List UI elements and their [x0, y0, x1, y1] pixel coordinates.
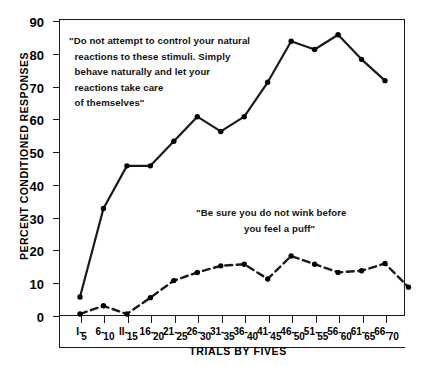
x-tick-label-1-5: I-5 — [76, 327, 88, 337]
y-axis-title: PERCENT CONDITIONED RESPONSES — [18, 46, 30, 266]
x-tick-label-61-65: 61-65 — [351, 327, 377, 337]
x-tick-label-66-70: 66-70 — [374, 327, 400, 337]
x-tick-label-6-10: 6-10 — [95, 327, 115, 337]
y-tick-label-20: 20 — [30, 244, 44, 259]
x-tick-46-50: 46-50 — [292, 316, 293, 323]
x-tick-36-40: 36-40 — [245, 316, 246, 323]
x-tick-41-45: 41-45 — [269, 316, 270, 323]
y-tick-10: 10 — [53, 283, 60, 284]
x-tick-label-46-50: 46-50 — [280, 327, 306, 337]
x-tick-label-51-55: 51-55 — [304, 327, 330, 337]
x-tick-label-11-15: II-15 — [119, 327, 139, 337]
y-tick-label-0: 0 — [37, 310, 44, 325]
x-tick-61-65: 61-65 — [363, 316, 364, 323]
y-tick-80: 80 — [53, 54, 60, 55]
x-tick-66-70: 66-70 — [386, 316, 387, 323]
x-axis-line — [59, 315, 405, 316]
y-tick-90: 90 — [53, 21, 60, 22]
x-tick-6-10: 6-10 — [104, 316, 105, 323]
x-tick-31-35: 31-35 — [222, 316, 223, 323]
y-tick-20: 20 — [53, 250, 60, 251]
y-tick-60: 60 — [53, 119, 60, 120]
y-tick-label-70: 70 — [30, 80, 44, 95]
y-tick-label-60: 60 — [30, 113, 44, 128]
x-tick-56-60: 56-60 — [339, 316, 340, 323]
x-axis-title: TRIALS BY FIVES — [0, 345, 438, 357]
x-tick-label-21-25: 21-25 — [163, 327, 189, 337]
chart-figure: PERCENT CONDITIONED RESPONSES 0102030405… — [0, 0, 438, 366]
x-tick-51-55: 51-55 — [316, 316, 317, 323]
y-tick-label-50: 50 — [30, 146, 44, 161]
x-tick-26-30: 26-30 — [198, 316, 199, 323]
y-tick-label-40: 40 — [30, 178, 44, 193]
x-tick-label-56-60: 56-60 — [327, 327, 353, 337]
y-tick-50: 50 — [53, 152, 60, 153]
bottom-annotation: "Be sure you do not wink before you feel… — [196, 205, 347, 236]
x-tick-11-15: II-15 — [128, 316, 129, 323]
y-tick-label-80: 80 — [30, 47, 44, 62]
x-tick-21-25: 21-25 — [175, 316, 176, 323]
x-tick-label-41-45: 41-45 — [257, 327, 283, 337]
y-tick-label-10: 10 — [30, 277, 44, 292]
top-annotation: "Do not attempt to control your natural … — [69, 33, 250, 111]
x-tick-label-26-30: 26-30 — [187, 327, 213, 337]
x-tick-1-5: I-5 — [81, 316, 82, 323]
y-tick-70: 70 — [53, 87, 60, 88]
y-axis-lower-extension — [59, 315, 60, 347]
data-point — [406, 284, 411, 289]
y-tick-label-90: 90 — [30, 15, 44, 30]
y-tick-label-30: 30 — [30, 211, 44, 226]
x-tick-label-36-40: 36-40 — [233, 327, 259, 337]
y-tick-40: 40 — [53, 185, 60, 186]
x-tick-label-16-20: 16-20 — [140, 327, 166, 337]
y-tick-30: 30 — [53, 218, 60, 219]
x-tick-label-31-35: 31-35 — [210, 327, 236, 337]
x-tick-16-20: 16-20 — [151, 316, 152, 323]
